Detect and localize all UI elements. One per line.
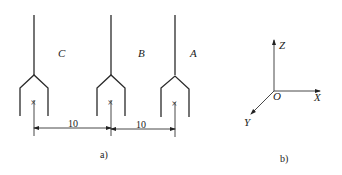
y-axis-label: Y xyxy=(244,116,252,128)
label-c: C xyxy=(58,47,66,59)
coordinate-axes xyxy=(251,40,320,114)
dimension-value-ba: 10 xyxy=(136,119,146,130)
x-axis-label: X xyxy=(313,91,322,103)
cross-marker-b: × xyxy=(108,97,114,108)
origin-label: O xyxy=(273,90,281,102)
cross-marker-c: × xyxy=(31,97,37,108)
z-axis-label: Z xyxy=(279,39,286,51)
label-b: B xyxy=(138,47,145,59)
diagram-canvas: × × × C B A 10 10 a) Z X Y O b) xyxy=(0,0,342,175)
cross-marker-a: × xyxy=(172,98,178,109)
dimension-value-cb: 10 xyxy=(68,118,78,129)
caption-a: a) xyxy=(100,149,108,161)
conductor-a: × xyxy=(161,15,189,117)
y-axis xyxy=(251,91,274,114)
label-a: A xyxy=(189,47,197,59)
caption-b: b) xyxy=(280,153,288,165)
